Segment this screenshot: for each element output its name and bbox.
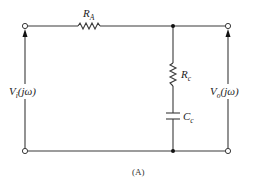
resistor-rc-icon xyxy=(170,63,176,86)
circuit-svg: RA Rc Cc Vi(jω) Vo(jω) (A) xyxy=(0,0,257,183)
terminal-input-top-icon xyxy=(22,23,27,28)
label-rc: Rc xyxy=(180,68,192,83)
label-ra: RA xyxy=(82,7,95,22)
terminal-output-bottom-icon xyxy=(225,148,230,153)
resistor-ra-icon xyxy=(78,23,100,29)
label-cc: Cc xyxy=(183,110,194,125)
output-arrow-icon xyxy=(226,29,231,37)
figure-caption: (A) xyxy=(132,167,145,177)
input-arrow-icon xyxy=(23,29,28,37)
circuit-diagram: RA Rc Cc Vi(jω) Vo(jω) (A) xyxy=(0,0,257,183)
terminal-output-top-icon xyxy=(225,23,230,28)
terminal-input-bottom-icon xyxy=(22,148,27,153)
junction-node-top xyxy=(171,24,175,28)
junction-node-bottom xyxy=(171,149,175,153)
